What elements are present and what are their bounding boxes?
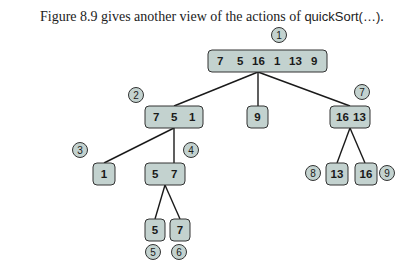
svg-text:5: 5 — [152, 224, 159, 236]
step-marker-8: 8 — [306, 166, 321, 181]
svg-text:6: 6 — [176, 247, 182, 258]
svg-text:1: 1 — [274, 55, 281, 67]
svg-text:7: 7 — [217, 55, 223, 67]
node-right-left: 13 — [326, 163, 348, 185]
svg-text:1: 1 — [101, 168, 108, 180]
svg-text:13: 13 — [289, 55, 302, 67]
node-right-right: 16 — [355, 163, 377, 185]
svg-text:4: 4 — [188, 145, 194, 156]
step-marker-5: 5 — [146, 245, 161, 260]
node-root: 7 5 16 1 13 9 — [208, 50, 327, 72]
svg-text:7: 7 — [359, 87, 365, 98]
step-marker-6: 6 — [172, 245, 187, 260]
step-marker-3: 3 — [73, 143, 88, 158]
quicksort-tree-diagram: 7 5 16 1 13 9 1 7 5 1 2 9 16 13 7 1 — [0, 0, 395, 271]
svg-text:13: 13 — [331, 168, 344, 180]
svg-text:7: 7 — [177, 224, 183, 236]
node-lr-left: 5 — [145, 219, 165, 241]
step-marker-9: 9 — [380, 166, 395, 181]
svg-text:7: 7 — [171, 168, 177, 180]
node-left: 7 5 1 — [145, 106, 203, 128]
svg-text:3: 3 — [77, 145, 83, 156]
svg-text:9: 9 — [384, 168, 390, 179]
svg-text:16: 16 — [336, 111, 349, 123]
node-lr-right: 7 — [170, 219, 190, 241]
step-marker-4: 4 — [184, 143, 199, 158]
node-right: 16 13 — [330, 106, 370, 128]
svg-text:9: 9 — [311, 55, 317, 67]
svg-text:5: 5 — [150, 247, 156, 258]
svg-text:5: 5 — [237, 55, 244, 67]
svg-text:7: 7 — [153, 111, 159, 123]
svg-text:5: 5 — [152, 168, 159, 180]
step-marker-7: 7 — [355, 85, 370, 100]
node-left-right: 5 7 — [145, 163, 185, 185]
svg-text:1: 1 — [189, 111, 196, 123]
svg-text:16: 16 — [360, 168, 373, 180]
svg-text:9: 9 — [254, 111, 260, 123]
svg-text:8: 8 — [310, 168, 316, 179]
svg-text:16: 16 — [252, 55, 265, 67]
step-marker-2: 2 — [129, 88, 144, 103]
svg-text:13: 13 — [353, 111, 366, 123]
node-left-left: 1 — [93, 163, 115, 185]
svg-text:2: 2 — [133, 90, 139, 101]
node-pivot-9: 9 — [247, 106, 268, 128]
svg-text:5: 5 — [171, 111, 178, 123]
svg-text:1: 1 — [276, 30, 282, 41]
step-marker-1: 1 — [272, 28, 287, 43]
